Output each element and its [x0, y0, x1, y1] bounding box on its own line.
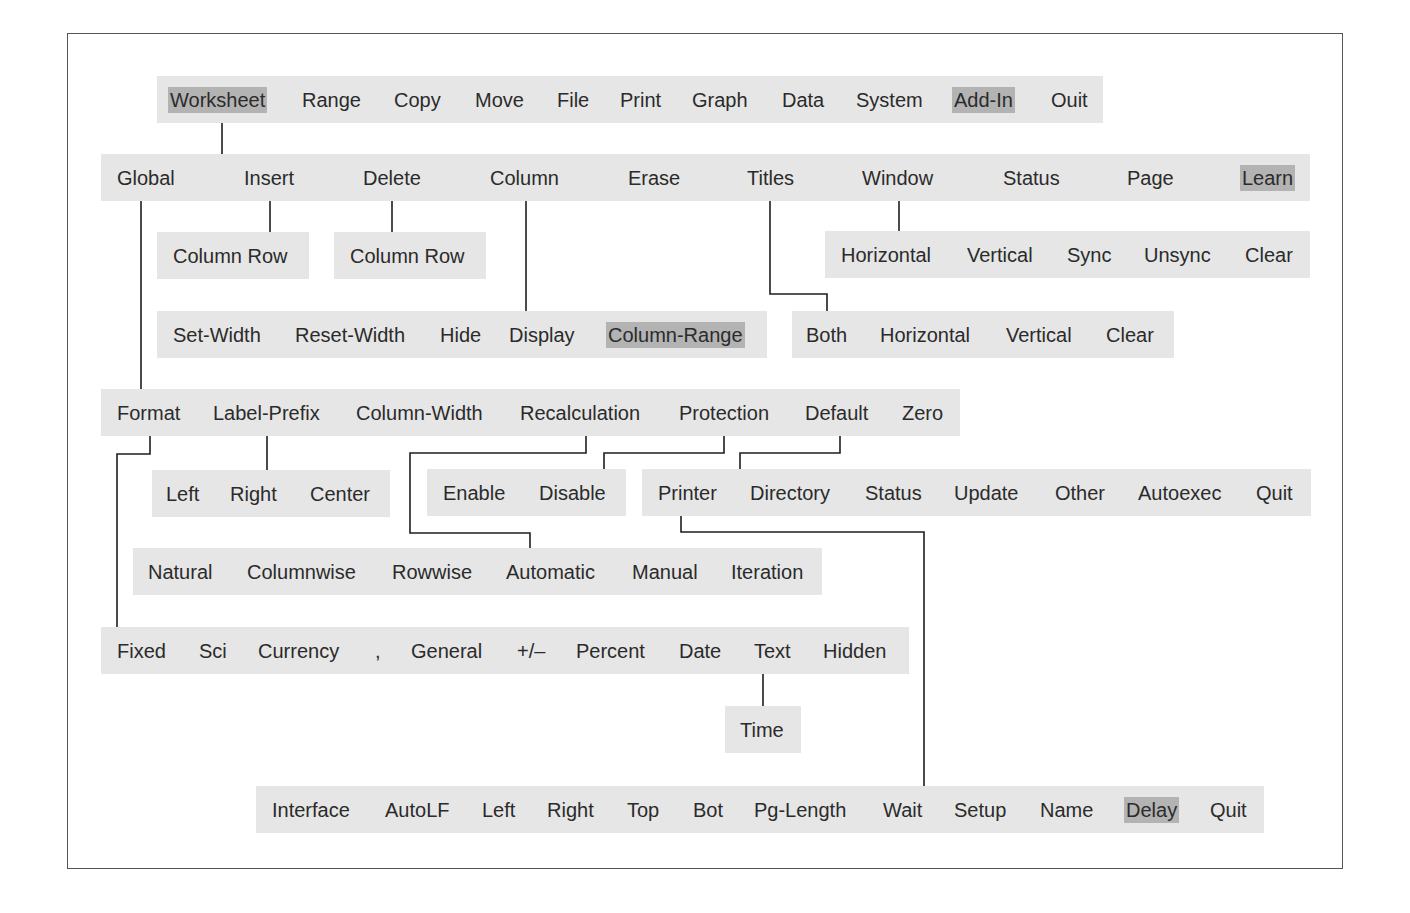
menu-item-titles-vertical[interactable]: Vertical — [1004, 322, 1074, 348]
menu-item-default[interactable]: Default — [803, 400, 870, 426]
menu-item-status[interactable]: Status — [1001, 165, 1062, 191]
menu-item-display[interactable]: Display — [507, 322, 577, 348]
menu-item-printer-wait[interactable]: Wait — [881, 797, 924, 823]
menu-item-default-printer[interactable]: Printer — [656, 480, 719, 506]
menu-item-default-quit[interactable]: Quit — [1254, 480, 1295, 506]
menu-item-format-comma[interactable]: , — [373, 638, 383, 664]
menu-item-format-percent[interactable]: Percent — [574, 638, 647, 664]
menu-item-copy[interactable]: Copy — [392, 87, 443, 113]
global-submenu-bar: Format Label-Prefix Column-Width Recalcu… — [101, 389, 960, 436]
menu-item-label-left[interactable]: Left — [164, 481, 201, 507]
menu-item-window-clear[interactable]: Clear — [1243, 242, 1295, 268]
main-menu-bar: Worksheet Range Copy Move File Print Gra… — [157, 76, 1103, 123]
menu-item-printer-bot[interactable]: Bot — [691, 797, 725, 823]
menu-item-move[interactable]: Move — [473, 87, 526, 113]
menu-item-printer-left[interactable]: Left — [480, 797, 517, 823]
menu-item-titles-horizontal[interactable]: Horizontal — [878, 322, 972, 348]
menu-item-window-vertical[interactable]: Vertical — [965, 242, 1035, 268]
menu-item-format-text[interactable]: Text — [752, 638, 793, 664]
menu-item-insert-column-row[interactable]: Column Row — [171, 243, 289, 269]
menu-item-hide[interactable]: Hide — [438, 322, 483, 348]
menu-item-format-fixed[interactable]: Fixed — [115, 638, 168, 664]
recalculation-submenu-bar: Natural Columnwise Rowwise Automatic Man… — [133, 548, 822, 595]
menu-item-recalc-columnwise[interactable]: Columnwise — [245, 559, 358, 585]
menu-item-range[interactable]: Range — [300, 87, 363, 113]
menu-item-default-autoexec[interactable]: Autoexec — [1136, 480, 1223, 506]
menu-item-default-other[interactable]: Other — [1053, 480, 1107, 506]
menu-item-titles-clear[interactable]: Clear — [1104, 322, 1156, 348]
menu-item-recalc-automatic[interactable]: Automatic — [504, 559, 597, 585]
menu-item-data[interactable]: Data — [780, 87, 826, 113]
menu-item-column[interactable]: Column — [488, 165, 561, 191]
menu-item-file[interactable]: File — [555, 87, 591, 113]
menu-item-delete-column-row[interactable]: Column Row — [348, 243, 466, 269]
menu-item-recalc-natural[interactable]: Natural — [146, 559, 214, 585]
menu-item-page[interactable]: Page — [1125, 165, 1176, 191]
menu-item-window-horizontal[interactable]: Horizontal — [839, 242, 933, 268]
menu-item-label-prefix[interactable]: Label-Prefix — [211, 400, 322, 426]
menu-item-window[interactable]: Window — [860, 165, 935, 191]
menu-item-print[interactable]: Print — [618, 87, 663, 113]
menu-item-recalc-manual[interactable]: Manual — [630, 559, 700, 585]
menu-item-add-in[interactable]: Add-In — [952, 87, 1015, 113]
menu-item-worksheet[interactable]: Worksheet — [168, 87, 267, 113]
menu-item-global[interactable]: Global — [115, 165, 177, 191]
menu-item-format-plus-minus[interactable]: +/– — [515, 638, 547, 664]
menu-item-protection[interactable]: Protection — [677, 400, 771, 426]
menu-item-default-directory[interactable]: Directory — [748, 480, 832, 506]
menu-item-printer-right[interactable]: Right — [545, 797, 596, 823]
menu-item-zero[interactable]: Zero — [900, 400, 945, 426]
menu-item-label-right[interactable]: Right — [228, 481, 279, 507]
menu-item-format-currency[interactable]: Currency — [256, 638, 341, 664]
menu-item-erase[interactable]: Erase — [626, 165, 682, 191]
text-submenu-bar: Time — [725, 706, 801, 753]
default-submenu-bar: Printer Directory Status Update Other Au… — [642, 469, 1311, 516]
menu-item-format[interactable]: Format — [115, 400, 182, 426]
menu-item-insert[interactable]: Insert — [242, 165, 296, 191]
menu-item-titles[interactable]: Titles — [745, 165, 796, 191]
menu-item-format-general[interactable]: General — [409, 638, 484, 664]
format-submenu-bar: Fixed Sci Currency , General +/– Percent… — [101, 627, 909, 674]
menu-item-recalculation[interactable]: Recalculation — [518, 400, 642, 426]
window-submenu-bar: Horizontal Vertical Sync Unsync Clear — [825, 231, 1310, 278]
menu-item-column-range[interactable]: Column-Range — [606, 322, 745, 348]
menu-item-printer-quit[interactable]: Quit — [1208, 797, 1249, 823]
label-prefix-submenu-bar: Left Right Center — [152, 470, 390, 517]
menu-item-default-update[interactable]: Update — [952, 480, 1021, 506]
menu-item-printer-delay[interactable]: Delay — [1124, 797, 1179, 823]
menu-item-text-time[interactable]: Time — [738, 717, 786, 743]
menu-item-default-status[interactable]: Status — [863, 480, 924, 506]
menu-item-protection-enable[interactable]: Enable — [441, 480, 507, 506]
menu-item-graph[interactable]: Graph — [690, 87, 750, 113]
insert-submenu-bar: Column Row — [157, 232, 309, 279]
printer-submenu-bar: Interface AutoLF Left Right Top Bot Pg-L… — [256, 786, 1264, 833]
menu-item-delete[interactable]: Delete — [361, 165, 423, 191]
column-submenu-bar: Set-Width Reset-Width Hide Display Colum… — [157, 311, 767, 358]
delete-submenu-bar: Column Row — [334, 232, 486, 279]
menu-item-printer-setup[interactable]: Setup — [952, 797, 1008, 823]
menu-item-quit[interactable]: Ouit — [1049, 87, 1090, 113]
menu-item-format-hidden[interactable]: Hidden — [821, 638, 888, 664]
menu-item-system[interactable]: System — [854, 87, 925, 113]
menu-item-reset-width[interactable]: Reset-Width — [293, 322, 407, 348]
menu-item-format-sci[interactable]: Sci — [197, 638, 229, 664]
menu-item-printer-interface[interactable]: Interface — [270, 797, 352, 823]
menu-item-printer-autolf[interactable]: AutoLF — [383, 797, 451, 823]
menu-item-column-width[interactable]: Column-Width — [354, 400, 485, 426]
menu-item-protection-disable[interactable]: Disable — [537, 480, 608, 506]
menu-item-printer-pg-length[interactable]: Pg-Length — [752, 797, 848, 823]
worksheet-menu-bar: Global Insert Delete Column Erase Titles… — [101, 154, 1310, 201]
menu-item-label-center[interactable]: Center — [308, 481, 372, 507]
menu-item-printer-top[interactable]: Top — [625, 797, 661, 823]
menu-item-recalc-iteration[interactable]: Iteration — [729, 559, 805, 585]
menu-item-learn[interactable]: Learn — [1240, 165, 1295, 191]
menu-item-titles-both[interactable]: Both — [804, 322, 849, 348]
titles-submenu-bar: Both Horizontal Vertical Clear — [792, 311, 1174, 358]
menu-item-printer-name[interactable]: Name — [1038, 797, 1095, 823]
menu-item-window-sync[interactable]: Sync — [1065, 242, 1113, 268]
menu-item-recalc-rowwise[interactable]: Rowwise — [390, 559, 474, 585]
protection-submenu-bar: Enable Disable — [427, 469, 626, 516]
menu-item-format-date[interactable]: Date — [677, 638, 723, 664]
menu-item-set-width[interactable]: Set-Width — [171, 322, 263, 348]
menu-item-window-unsync[interactable]: Unsync — [1142, 242, 1213, 268]
